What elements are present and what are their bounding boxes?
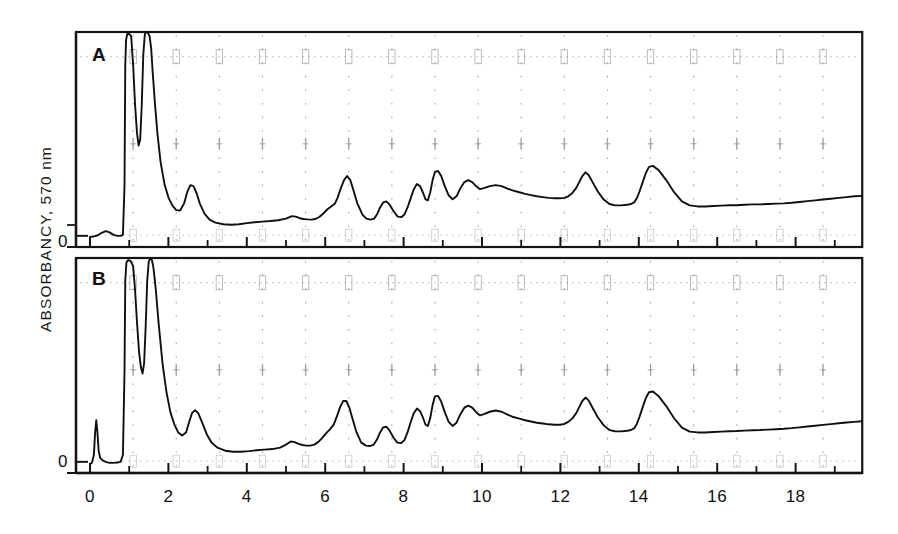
panel-label-b: B bbox=[92, 268, 106, 290]
x-tick-label-18: 18 bbox=[786, 487, 806, 507]
plot-canvas bbox=[0, 0, 898, 534]
y-axis-zero-label-panel-b: 0 bbox=[58, 452, 67, 472]
x-tick-label-14: 14 bbox=[629, 487, 649, 507]
grid-layer bbox=[80, 35, 860, 470]
x-tick-label-10: 10 bbox=[472, 487, 492, 507]
y-axis-label: ABSORBANCY, 570 nm bbox=[37, 109, 55, 369]
x-tick-label-0: 0 bbox=[85, 487, 95, 507]
x-tick-label-12: 12 bbox=[550, 487, 570, 507]
x-tick-label-2: 2 bbox=[163, 487, 173, 507]
x-tick-label-4: 4 bbox=[242, 487, 252, 507]
x-axis-tick-labels: 024681012141618 bbox=[0, 487, 898, 517]
x-tick-label-16: 16 bbox=[707, 487, 727, 507]
x-tick-label-6: 6 bbox=[320, 487, 330, 507]
panel-label-a: A bbox=[92, 44, 106, 66]
chromatogram-figure: ABSORBANCY, 570 nm 0 0 A B 0246810121416… bbox=[0, 0, 898, 534]
y-axis-zero-label-panel-a: 0 bbox=[58, 232, 67, 252]
x-tick-label-8: 8 bbox=[399, 487, 409, 507]
